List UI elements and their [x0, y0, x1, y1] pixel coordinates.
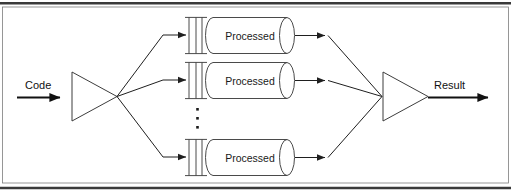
vertical-ellipsis: [196, 108, 199, 129]
ellipsis-dot: [196, 126, 199, 129]
branch-arrow-in-1: [117, 35, 163, 97]
fan-in-triangle: [383, 72, 428, 121]
branch-row-2: Processed: [185, 62, 325, 99]
merge-line-1: [328, 36, 382, 97]
gate-bars-icon: [185, 139, 207, 176]
ellipsis-dot: [196, 117, 199, 120]
fan-in-branch-arrows: [328, 36, 382, 158]
fan-out-branch-arrows: [117, 35, 186, 157]
processed-label-2: Processed: [225, 75, 275, 87]
output-label: Result: [434, 79, 465, 91]
input-group: Code: [17, 79, 60, 98]
gate-bars-icon: [185, 62, 207, 99]
branch-arrow-in-2: [117, 80, 163, 97]
input-label: Code: [25, 79, 51, 91]
gate-bars-icon: [185, 17, 207, 54]
merge-line-2: [328, 81, 382, 97]
fan-out-triangle: [72, 72, 117, 121]
branch-row-3: Processed: [185, 139, 325, 176]
branch-arrow-in-3: [117, 97, 163, 158]
merge-line-3: [328, 97, 382, 158]
branch-row-1: Processed: [185, 17, 325, 54]
processed-label-1: Processed: [225, 30, 275, 42]
ellipsis-dot: [196, 108, 199, 111]
processed-label-3: Processed: [225, 152, 275, 164]
diagram-canvas: Code: [0, 0, 511, 191]
output-group: Result: [428, 79, 488, 98]
